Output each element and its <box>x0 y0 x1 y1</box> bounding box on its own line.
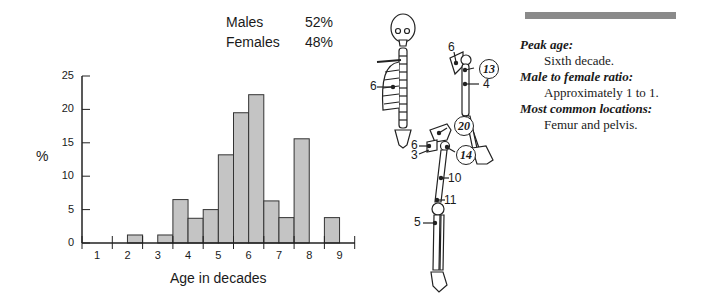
histogram-bar <box>294 139 309 243</box>
count-label: 4 <box>483 77 490 91</box>
count-label: 6 <box>448 40 455 54</box>
header-rule <box>525 12 676 19</box>
skull-icon <box>391 14 415 42</box>
histogram-bar <box>158 235 173 243</box>
circled-count-label: 20 <box>454 116 474 136</box>
count-label: 10 <box>448 171 461 185</box>
histogram-bar <box>249 95 264 243</box>
histogram-bar <box>218 155 233 243</box>
histogram-bar <box>173 200 188 243</box>
histogram-bars <box>127 95 339 243</box>
histogram-bar <box>203 210 218 243</box>
histogram-bar <box>188 218 203 243</box>
circled-count-label: 13 <box>479 59 499 79</box>
info-value-locations: Femur and pelvis. <box>520 117 706 133</box>
info-heading-locations: Most common locations: <box>520 101 706 117</box>
histogram-bar <box>234 113 249 243</box>
circled-count-label: 14 <box>456 145 476 165</box>
histogram-bar <box>264 201 279 243</box>
chart-plot <box>0 0 360 305</box>
histogram-bar <box>127 235 142 243</box>
count-label: 3 <box>411 148 418 162</box>
info-value-ratio: Approximately 1 to 1. <box>520 85 706 101</box>
foot-icon <box>431 272 447 292</box>
histogram-bar <box>324 218 339 243</box>
skeleton-drawing <box>355 0 515 305</box>
info-heading-ratio: Male to female ratio: <box>520 69 706 85</box>
count-label: 6 <box>370 79 377 93</box>
info-heading-peak-age: Peak age: <box>520 37 706 53</box>
count-label: 11 <box>444 193 456 207</box>
count-label: 5 <box>414 215 421 229</box>
histogram-bar <box>279 218 294 243</box>
info-block: Peak age: Sixth decade. Male to female r… <box>520 37 706 133</box>
info-value-peak-age: Sixth decade. <box>520 53 706 69</box>
